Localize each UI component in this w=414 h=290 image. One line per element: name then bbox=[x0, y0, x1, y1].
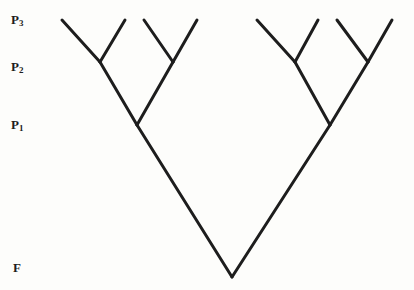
generation-label-p2-base: P bbox=[11, 59, 19, 74]
tree-edge-p2a-to-tip-2 bbox=[100, 20, 125, 62]
generation-label-p2-subscript: 2 bbox=[19, 65, 24, 75]
generation-label-p3-subscript: 3 bbox=[19, 18, 24, 28]
generation-label-p1-subscript: 1 bbox=[19, 123, 24, 133]
pedigree-tree-diagram bbox=[0, 0, 414, 290]
tree-edge-p2b-to-tip-4 bbox=[173, 20, 197, 62]
tree-edge-p2d-to-tip-8 bbox=[368, 20, 392, 62]
tree-edge-p2d-to-tip-7 bbox=[337, 20, 368, 62]
generation-label-p1-base: P bbox=[11, 117, 19, 132]
tree-edge-apex-to-p1-right bbox=[232, 125, 330, 277]
figure-canvas: P3 P2 P1 F bbox=[0, 0, 414, 290]
tree-edge-p1right-to-p2-c bbox=[295, 62, 330, 125]
tree-edge-group bbox=[62, 20, 392, 277]
generation-label-p3-base: P bbox=[11, 12, 19, 27]
generation-label-f: F bbox=[13, 261, 21, 274]
tree-edge-apex-to-p1-left bbox=[137, 125, 232, 277]
generation-label-p2: P2 bbox=[11, 60, 23, 73]
tree-edge-p1left-to-p2-b bbox=[137, 62, 173, 125]
tree-edge-p1right-to-p2-d bbox=[330, 62, 368, 125]
generation-label-p1: P1 bbox=[11, 118, 23, 131]
tree-edge-p2c-to-tip-5 bbox=[257, 20, 295, 62]
generation-label-f-base: F bbox=[13, 260, 21, 275]
tree-edge-p2b-to-tip-3 bbox=[144, 20, 173, 62]
tree-edge-p1left-to-p2-a bbox=[100, 62, 137, 125]
tree-edge-p2a-to-tip-1 bbox=[62, 20, 100, 62]
generation-label-p3: P3 bbox=[11, 13, 23, 26]
tree-edge-p2c-to-tip-6 bbox=[295, 20, 318, 62]
